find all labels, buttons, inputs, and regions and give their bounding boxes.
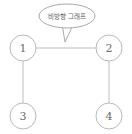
title-speech-bubble: 비방향 그래프 (39, 4, 95, 42)
speech-bubble-label: 비방향 그래프 (48, 12, 86, 21)
node-4-label: 4 (106, 110, 113, 123)
node-2[interactable]: 2 (96, 35, 122, 61)
node-2-label: 2 (106, 42, 113, 55)
graph-diagram: 1 2 3 4 비방향 그래프 (0, 0, 132, 134)
node-4[interactable]: 4 (96, 103, 122, 129)
edge-group (23, 48, 109, 103)
node-1-label: 1 (20, 42, 27, 55)
graph-canvas: 1 2 3 4 비방향 그래프 (0, 0, 132, 134)
node-3[interactable]: 3 (10, 103, 36, 129)
node-group: 1 2 3 4 (10, 35, 122, 129)
node-1[interactable]: 1 (10, 35, 36, 61)
node-3-label: 3 (20, 110, 27, 123)
